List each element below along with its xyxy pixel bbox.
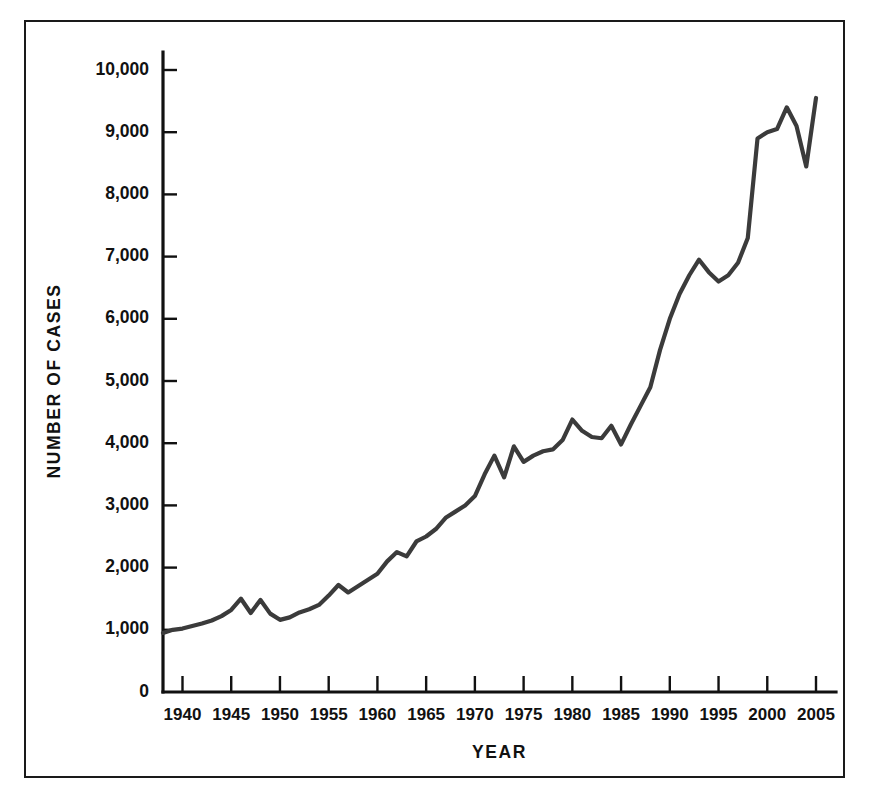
x-tick-label: 1940 [164,705,202,724]
y-tick-label: 8,000 [105,183,149,203]
y-axis-ticks [163,70,177,630]
y-tick-label: 2,000 [105,556,149,576]
x-tick-label: 1980 [553,705,591,724]
y-tick-label: 4,000 [105,432,149,452]
x-tick-label: 1990 [651,705,689,724]
y-tick-label: 3,000 [105,494,149,514]
y-tick-label: 5,000 [105,370,149,390]
x-tick-label: 1965 [407,705,445,724]
x-tick-label: 1970 [456,705,494,724]
x-tick-label: 1960 [359,705,397,724]
x-tick-label: 2000 [748,705,786,724]
x-tick-label: 1945 [212,705,250,724]
y-tick-label: 0 [139,681,149,701]
x-tick-label: 1995 [700,705,738,724]
x-tick-label: 1950 [261,705,299,724]
x-axis-tick-labels: 1940194519501955196019651970197519801985… [164,705,835,724]
y-tick-label: 10,000 [95,59,149,79]
x-tick-label: 2005 [797,705,835,724]
y-tick-label: 6,000 [105,307,149,327]
line-chart: 01,0002,0003,0004,0005,0006,0007,0008,00… [26,22,843,776]
x-tick-label: 1985 [602,705,640,724]
y-tick-label: 9,000 [105,121,149,141]
figure-frame: 01,0002,0003,0004,0005,0006,0007,0008,00… [24,20,845,778]
y-axis-tick-labels: 01,0002,0003,0004,0005,0006,0007,0008,00… [95,59,149,701]
x-tick-label: 1955 [310,705,348,724]
y-tick-label: 7,000 [105,245,149,265]
data-series-line [163,98,816,633]
y-tick-label: 1,000 [105,618,149,638]
x-tick-label: 1975 [505,705,543,724]
x-axis-title: YEAR [472,742,527,762]
x-axis-ticks [182,676,816,692]
y-axis-title: NUMBER OF CASES [44,283,64,478]
